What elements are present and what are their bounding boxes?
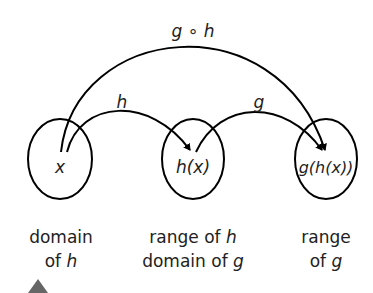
- element-g-of-h-of-x: g(h(x)): [299, 158, 354, 177]
- caption-range-g-line1: range: [301, 227, 350, 247]
- caption-domain-h-line2: of h: [45, 251, 78, 271]
- label-arrow-g: g: [254, 92, 265, 112]
- caption-range-h-line2: domain of g: [142, 251, 244, 271]
- triangle-marker-icon: [28, 279, 48, 293]
- caption-range-g-line2: of g: [310, 251, 343, 271]
- label-arrow-g-compose-h: g ∘ h: [171, 21, 214, 41]
- arrow-g-compose-h: [61, 47, 325, 152]
- element-x: x: [54, 157, 66, 177]
- arrow-h: [67, 111, 190, 152]
- composition-diagram: h g g ∘ h x h(x) g(h(x)) domain of h ran…: [0, 0, 373, 293]
- caption-domain-h-line1: domain: [29, 227, 93, 247]
- label-arrow-h: h: [117, 92, 128, 112]
- element-h-of-x: h(x): [176, 157, 210, 177]
- caption-range-h-line1: range of h: [149, 227, 236, 247]
